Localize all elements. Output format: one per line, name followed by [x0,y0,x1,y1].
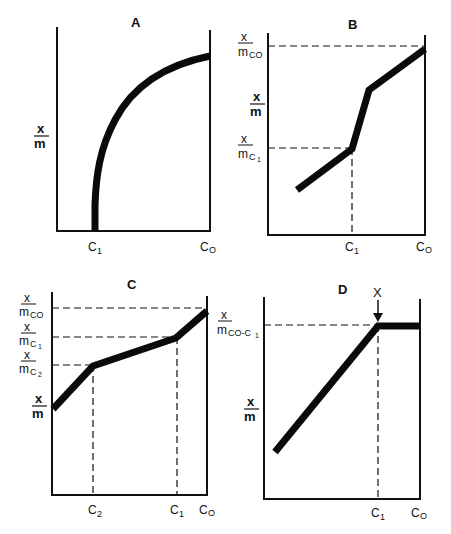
panel-c-title: C [127,277,137,292]
panel-d-x-annotation: X [373,285,383,322]
svg-text:m: m [19,334,29,348]
svg-text:C: C [30,339,37,349]
svg-text:x: x [37,121,45,136]
svg-text:C: C [88,240,97,254]
panel-a-y-label: x m [34,121,49,151]
svg-text:O: O [208,508,215,518]
panel-c-y-label: x m [32,391,47,421]
panel-a-axes [57,27,210,231]
panel-a-x-tick-c1: C 1 [88,240,102,256]
panel-b-x-tick-co: C O [416,240,432,255]
svg-text:O: O [209,245,216,255]
svg-text:x: x [241,30,247,44]
panel-d-y-tick: x m CO-C 1 [217,308,259,339]
adsorption-isotherm-figure: A x m C 1 C O B x m CO [0,0,451,534]
svg-text:CO: CO [249,50,263,60]
svg-text:x: x [253,89,261,104]
svg-text:C: C [88,503,97,517]
svg-text:C: C [200,240,209,254]
svg-text:m: m [244,409,256,424]
panel-c-y-tick-c2: x m C 2 [19,348,42,378]
svg-text:C: C [199,503,208,517]
svg-text:x: x [24,291,30,305]
svg-text:x: x [221,308,227,322]
svg-text:C: C [416,240,425,254]
panel-c-axes [52,292,207,495]
svg-text:1: 1 [179,509,184,519]
panel-a-x-tick-co: C O [200,240,216,255]
panel-d-y-label: x m [244,394,259,424]
panel-b-y-label: x m [250,89,265,119]
panel-b-y-tick-co: x m CO [238,30,263,60]
svg-text:x: x [24,348,30,362]
svg-text:x: x [35,391,43,406]
panel-b-curve [297,49,425,190]
panel-c-x-tick-co: C O [199,503,215,518]
svg-text:X: X [373,285,382,300]
svg-text:CO-C: CO-C [228,328,251,338]
svg-text:1: 1 [38,343,42,350]
panel-b: B x m CO x m x m C 1 C 1 [238,17,432,256]
svg-text:C: C [30,367,37,377]
svg-text:x: x [24,320,30,334]
panel-b-x-tick-c1: C 1 [345,240,359,256]
svg-text:C: C [170,503,179,517]
panel-c: C x m CO x m C 1 x m C 2 x [19,277,215,519]
svg-text:1: 1 [97,246,102,256]
svg-text:m: m [238,45,248,59]
svg-text:m: m [19,305,29,319]
panel-d: D X x m CO-C 1 x m C 1 C O [217,282,427,522]
panel-a-curve [95,56,210,231]
svg-text:m: m [250,104,262,119]
panel-c-x-tick-c1: C 1 [170,503,184,519]
svg-text:1: 1 [354,246,359,256]
svg-text:x: x [247,394,255,409]
panel-c-y-tick-c1: x m C 1 [19,320,42,350]
svg-text:2: 2 [97,509,102,519]
svg-text:C: C [249,152,256,162]
panel-d-title: D [338,282,347,297]
svg-text:C: C [371,506,380,520]
svg-text:m: m [32,406,44,421]
panel-d-x-tick-c1: C 1 [371,506,385,522]
svg-text:m: m [238,147,248,161]
panel-c-y-tick-co: x m CO [19,291,44,320]
svg-text:1: 1 [380,512,385,522]
panel-b-y-tick-c1: x m C 1 [238,132,261,163]
panel-b-title: B [348,17,357,32]
svg-text:1: 1 [255,332,259,339]
svg-text:O: O [420,511,427,521]
svg-text:CO: CO [30,310,44,320]
panel-c-curve [53,311,207,409]
svg-text:m: m [217,323,227,337]
svg-text:m: m [34,136,46,151]
svg-text:2: 2 [38,371,42,378]
svg-text:m: m [19,362,29,376]
svg-text:1: 1 [257,156,261,163]
svg-text:x: x [241,132,247,146]
panel-a-title: A [131,15,141,30]
panel-d-x-tick-co: C O [411,506,427,521]
panel-d-curve [275,326,420,452]
svg-text:C: C [345,240,354,254]
panel-c-x-tick-c2: C 2 [88,503,102,519]
svg-text:O: O [425,245,432,255]
panel-a: A x m C 1 C O [34,15,216,256]
svg-text:C: C [411,506,420,520]
